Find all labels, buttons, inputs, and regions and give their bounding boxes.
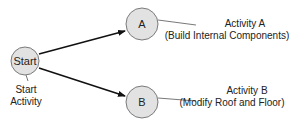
- activity-a-title: Activity A: [225, 18, 266, 29]
- activity-b-description: (Modify Roof and Floor): [179, 97, 284, 108]
- node-a: A: [126, 8, 158, 40]
- node-b-label: B: [138, 96, 145, 108]
- node-b: B: [126, 86, 158, 118]
- start-caption-line1: Start: [15, 84, 36, 95]
- activity-b-title: Activity B: [226, 85, 267, 96]
- leader-a: [158, 20, 196, 25]
- activity-a-description: (Build Internal Components): [165, 30, 290, 41]
- node-start: Start: [11, 47, 39, 75]
- node-a-label: A: [138, 18, 146, 30]
- edge-start-to-a: [39, 31, 125, 54]
- edge-start-to-b: [39, 68, 125, 96]
- activity-network-diagram: Start Start Activity A Activity A (Build…: [0, 0, 301, 123]
- start-caption-line2: Activity: [10, 96, 42, 107]
- leader-start: [26, 75, 28, 81]
- node-start-label: Start: [13, 55, 36, 67]
